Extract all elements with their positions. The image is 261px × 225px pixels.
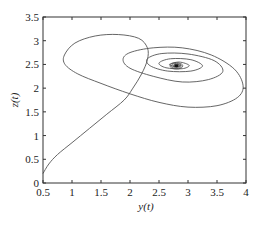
y-tick-label: 1.5 [25, 106, 39, 118]
y-axis-label: z(t) [8, 92, 21, 108]
y-tick-label: 0 [34, 177, 40, 189]
x-axis-label: y(t) [137, 200, 154, 213]
plot-area [43, 34, 243, 173]
x-tick-label: 1.5 [94, 186, 108, 198]
y-tick-label: 0.5 [25, 153, 39, 165]
y-tick-label: 2.5 [25, 58, 39, 70]
x-tick-label: 1 [69, 186, 75, 198]
y-tick-label: 2 [34, 82, 40, 94]
x-tick-label: 2.5 [152, 186, 166, 198]
y-tick-label: 3.5 [25, 11, 39, 23]
x-tick-label: 4 [243, 186, 249, 198]
x-axis-ticks: 0.511.522.533.54 [36, 17, 249, 198]
y-axis-ticks: 00.511.522.533.5 [25, 11, 246, 189]
equilibrium-point [174, 64, 178, 67]
y-tick-label: 3 [34, 35, 40, 47]
phase-portrait-chart: 0.511.522.533.54 00.511.522.533.5 y(t) z… [0, 0, 261, 225]
x-tick-label: 3 [185, 186, 191, 198]
x-tick-label: 3.5 [210, 186, 224, 198]
x-tick-label: 2 [127, 186, 133, 198]
axes-frame [43, 17, 246, 183]
trajectory-line [43, 34, 243, 173]
y-tick-label: 1 [34, 130, 40, 142]
